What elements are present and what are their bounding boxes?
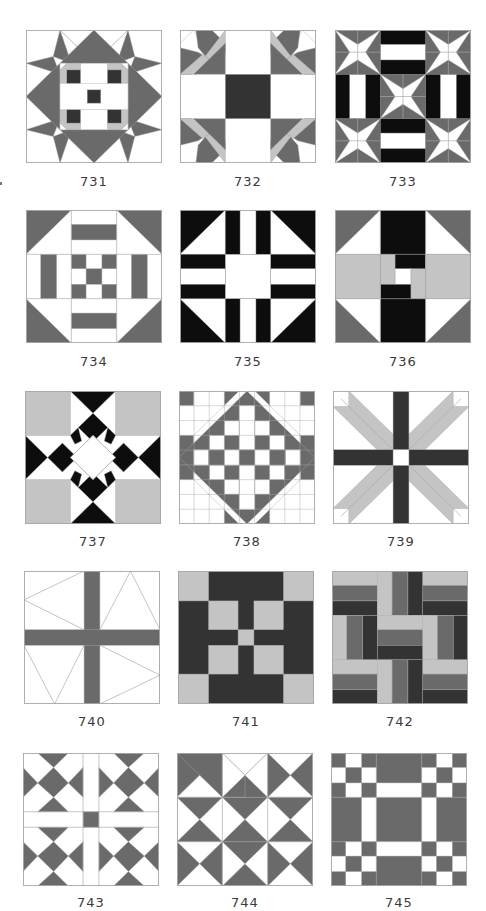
quilt-block-743 xyxy=(23,753,159,886)
quilt-pattern-graphic xyxy=(180,210,316,343)
block-label-739: 739 xyxy=(333,534,469,549)
block-label-741: 741 xyxy=(178,714,314,729)
quilt-block-738 xyxy=(179,391,315,524)
quilt-block-742 xyxy=(332,571,468,704)
quilt-block-735 xyxy=(180,210,316,343)
block-label-745: 745 xyxy=(331,895,467,910)
quilt-pattern-graphic xyxy=(179,391,315,524)
quilt-block-731 xyxy=(26,30,162,163)
block-label-740: 740 xyxy=(24,714,160,729)
block-label-743: 743 xyxy=(23,895,159,910)
quilt-pattern-graphic xyxy=(177,753,313,886)
quilt-block-732 xyxy=(180,30,316,163)
block-label-733: 733 xyxy=(335,174,471,189)
block-label-742: 742 xyxy=(332,714,468,729)
block-label-744: 744 xyxy=(177,895,313,910)
quilt-block-741 xyxy=(178,571,314,704)
block-label-737: 737 xyxy=(25,534,161,549)
quilt-block-737 xyxy=(25,391,161,524)
block-label-732: 732 xyxy=(180,174,316,189)
block-label-735: 735 xyxy=(180,354,316,369)
quilt-pattern-graphic xyxy=(333,391,469,524)
quilt-pattern-graphic xyxy=(335,30,471,163)
block-label-736: 736 xyxy=(335,354,471,369)
quilt-pattern-graphic xyxy=(178,571,314,704)
quilt-block-734 xyxy=(26,210,162,343)
quilt-pattern-graphic xyxy=(26,210,162,343)
quilt-pattern-graphic xyxy=(331,753,467,886)
quilt-block-744 xyxy=(177,753,313,886)
quilt-block-736 xyxy=(335,210,471,343)
quilt-block-745 xyxy=(331,753,467,886)
quilt-pattern-graphic xyxy=(335,210,471,343)
quilt-pattern-graphic xyxy=(24,571,160,704)
quilt-block-733 xyxy=(335,30,471,163)
quilt-pattern-graphic xyxy=(23,753,159,886)
quilt-pattern-graphic xyxy=(332,571,468,704)
block-label-734: 734 xyxy=(26,354,162,369)
block-label-738: 738 xyxy=(179,534,315,549)
quilt-pattern-graphic xyxy=(180,30,316,163)
quilt-block-740 xyxy=(24,571,160,704)
page-margin-mark xyxy=(0,182,2,185)
block-label-731: 731 xyxy=(26,174,162,189)
quilt-block-739 xyxy=(333,391,469,524)
quilt-pattern-graphic xyxy=(26,30,162,163)
quilt-pattern-graphic xyxy=(25,391,161,524)
